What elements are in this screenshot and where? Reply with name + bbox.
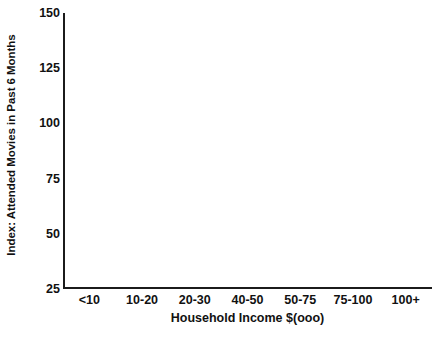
x-axis-tick-label: 20-30 bbox=[168, 291, 221, 311]
x-axis-tick-label-group: <1010-2020-3040-5050-7575-100100+ bbox=[63, 291, 432, 311]
data-series-layer bbox=[65, 13, 432, 287]
x-axis-tick-label: 10-20 bbox=[116, 291, 169, 311]
y-axis-tick-label: 125 bbox=[24, 62, 60, 75]
x-axis-tick-label: 75-100 bbox=[327, 291, 380, 311]
x-axis-tick-label: <10 bbox=[63, 291, 116, 311]
y-axis-tick-label: 100 bbox=[24, 117, 60, 130]
y-axis-tick-label: 75 bbox=[24, 172, 60, 185]
x-axis-tick-label: 40-50 bbox=[221, 291, 274, 311]
y-axis-tick-label-group: 255075100125150 bbox=[24, 0, 60, 300]
y-axis-title: Index: Attended Movies in Past 6 Months bbox=[0, 0, 22, 290]
plot-area bbox=[63, 13, 432, 289]
chart-container: Index: Attended Movies in Past 6 Months … bbox=[0, 0, 441, 340]
x-axis-title: Household Income $(ooo) bbox=[63, 311, 432, 325]
y-axis-tick-label: 150 bbox=[24, 7, 60, 20]
x-axis-tick-label: 50-75 bbox=[274, 291, 327, 311]
y-axis-tick-label: 25 bbox=[24, 283, 60, 296]
y-axis-title-text: Index: Attended Movies in Past 6 Months bbox=[5, 34, 17, 255]
y-axis-tick-label: 50 bbox=[24, 228, 60, 241]
x-axis-tick-label: 100+ bbox=[379, 291, 432, 311]
